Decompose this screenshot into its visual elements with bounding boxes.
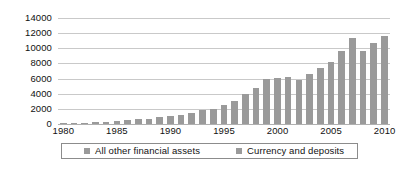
bar — [188, 113, 195, 124]
bar — [221, 105, 228, 124]
bar — [124, 120, 131, 124]
bar — [338, 51, 345, 124]
bar-slot — [79, 18, 90, 124]
bar-slot — [315, 18, 326, 124]
bar — [370, 43, 377, 124]
bar-slot — [229, 18, 240, 124]
bar — [306, 74, 313, 124]
bar — [242, 94, 249, 124]
legend-label: All other financial assets — [95, 146, 200, 156]
legend-item-all-other-financial-assets: All other financial assets — [84, 146, 200, 156]
bar — [274, 78, 281, 124]
bar-slot — [251, 18, 262, 124]
bar-slot — [261, 18, 272, 124]
y-axis-tick-label: 6000 — [30, 74, 52, 84]
bar-slot — [58, 18, 69, 124]
bar-slot — [347, 18, 358, 124]
bar-slot — [144, 18, 155, 124]
y-axis-tick-label: 8000 — [30, 59, 52, 69]
bar-slot — [240, 18, 251, 124]
bar-slot — [368, 18, 379, 124]
bar — [285, 77, 292, 124]
bar — [81, 123, 88, 124]
bar — [156, 117, 163, 124]
bar — [199, 110, 206, 124]
bar — [60, 123, 67, 124]
x-axis-tick-label: 2005 — [320, 126, 342, 136]
bar-slot — [283, 18, 294, 124]
x-axis-tick-label: 1980 — [53, 126, 75, 136]
bar — [253, 88, 260, 124]
bar-slot — [358, 18, 369, 124]
bar-slot — [165, 18, 176, 124]
bar-slot — [101, 18, 112, 124]
bar — [178, 115, 185, 124]
bar-slot — [219, 18, 230, 124]
bar — [349, 38, 356, 124]
bar-slot — [90, 18, 101, 124]
bar — [328, 62, 335, 124]
bar-slot — [69, 18, 80, 124]
y-axis-tick-label: 10000 — [25, 44, 52, 54]
bar — [71, 123, 78, 124]
plot-area — [58, 18, 390, 124]
y-axis-tick-label: 0 — [47, 119, 52, 129]
bar-slot — [326, 18, 337, 124]
bar — [210, 109, 217, 124]
y-axis-tick-label: 14000 — [25, 13, 52, 23]
bar-slot — [336, 18, 347, 124]
bar-slot — [208, 18, 219, 124]
bar — [360, 51, 367, 124]
bar — [103, 122, 110, 124]
legend-swatch-icon — [236, 148, 242, 154]
x-axis-tick-label: 2010 — [374, 126, 396, 136]
x-axis: 1980198519901995200020052010 — [58, 126, 390, 140]
bar-slot — [186, 18, 197, 124]
bar-chart: 02000400060008000100001200014000 1980198… — [0, 0, 397, 170]
bar-slot — [176, 18, 187, 124]
legend-swatch-icon — [84, 148, 90, 154]
bar-slot — [293, 18, 304, 124]
bar-slot — [272, 18, 283, 124]
bar-slot — [112, 18, 123, 124]
bar — [231, 101, 238, 124]
legend-label: Currency and deposits — [247, 146, 344, 156]
x-axis-tick-label: 1985 — [106, 126, 128, 136]
bar — [92, 122, 99, 124]
bar — [381, 36, 388, 124]
bar — [146, 119, 153, 124]
bar — [296, 80, 303, 124]
bar-slot — [133, 18, 144, 124]
y-axis-tick-label: 2000 — [30, 104, 52, 114]
bar — [263, 79, 270, 124]
bar — [167, 116, 174, 124]
bar-slot — [122, 18, 133, 124]
y-axis-tick-label: 12000 — [25, 28, 52, 38]
bar-slot — [154, 18, 165, 124]
x-axis-tick-label: 2000 — [267, 126, 289, 136]
bar — [317, 68, 324, 124]
bar — [114, 121, 121, 124]
x-axis-tick-label: 1990 — [160, 126, 182, 136]
bar-slot — [197, 18, 208, 124]
y-axis-tick-label: 4000 — [30, 89, 52, 99]
y-axis: 02000400060008000100001200014000 — [0, 18, 52, 124]
legend-item-currency-and-deposits: Currency and deposits — [236, 146, 344, 156]
bar-slot — [304, 18, 315, 124]
bar-slot — [379, 18, 390, 124]
bars-layer — [58, 18, 390, 124]
chart-legend: All other financial assets Currency and … — [61, 143, 358, 159]
x-axis-tick-label: 1995 — [213, 126, 235, 136]
bar — [135, 119, 142, 124]
